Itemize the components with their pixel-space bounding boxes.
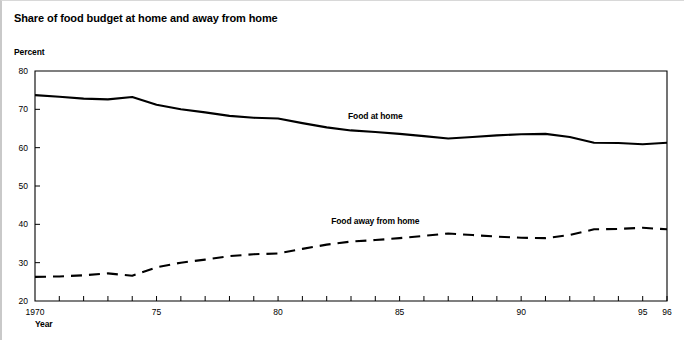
x-tick-label: 80 (273, 307, 283, 317)
y-tick-label: 60 (19, 143, 29, 153)
axes (35, 71, 667, 301)
line-chart-plot: 203040506070801970758085909596 Food at h… (2, 1, 684, 340)
y-tick-label: 20 (19, 296, 29, 306)
data-series (35, 95, 667, 277)
x-tick-label: 85 (395, 307, 405, 317)
x-tick-label: 96 (662, 307, 672, 317)
chart-figure: Share of food budget at home and away fr… (0, 0, 684, 340)
x-tick-label: 1970 (26, 307, 45, 317)
plot-frame (35, 71, 667, 301)
x-tick-label: 90 (516, 307, 526, 317)
x-tick-label: 75 (152, 307, 162, 317)
y-tick-label: 50 (19, 181, 29, 191)
y-tick-label: 80 (19, 66, 29, 76)
series-line-food-away-from-home (35, 228, 667, 277)
axis-tick-labels: 203040506070801970758085909596 (19, 66, 672, 317)
series-label-food-at-home: Food at home (348, 111, 403, 121)
series-label-food-away-from-home: Food away from home (331, 216, 420, 226)
y-tick-label: 70 (19, 104, 29, 114)
y-tick-label: 30 (19, 258, 29, 268)
series-annotations: Food at homeFood away from home (331, 111, 420, 226)
y-tick-label: 40 (19, 219, 29, 229)
x-tick-label: 95 (638, 307, 648, 317)
